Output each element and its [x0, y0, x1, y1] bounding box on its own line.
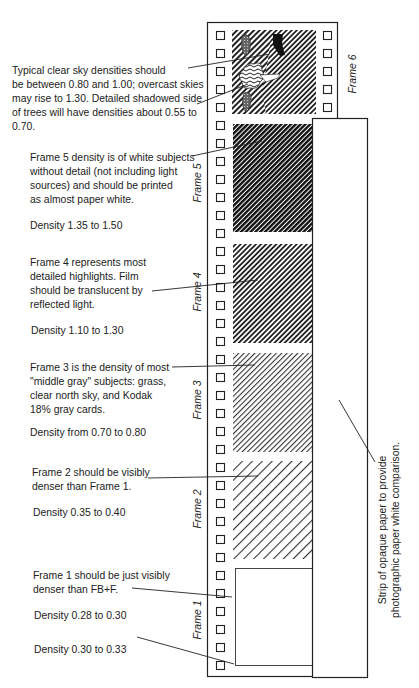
frame-4-label: Frame 4 — [191, 272, 203, 311]
paper-strip-label-line1: Strip of opaque paper to provide — [377, 456, 388, 605]
paper-strip-label-line2: photographic paper white comparison. — [390, 442, 401, 618]
frame-5-label: Frame 5 — [191, 163, 203, 202]
frame-2-image — [233, 461, 313, 559]
filmstrip-diagram: Frame 6 Frame 5 Frame 4 Frame 3 Frame 2 … — [0, 0, 419, 688]
frame-5-image — [233, 124, 313, 232]
frame-1-label: Frame 1 — [191, 600, 203, 639]
frame-1-image — [236, 569, 314, 666]
opaque-paper-strip — [313, 119, 368, 678]
frame-3-image — [233, 353, 313, 452]
frame-4-image — [233, 244, 313, 343]
frame-6-image — [232, 30, 316, 114]
frame-3-label: Frame 3 — [191, 380, 203, 419]
frame-6-label: Frame 6 — [346, 54, 358, 93]
frame-2-label: Frame 2 — [191, 489, 203, 528]
